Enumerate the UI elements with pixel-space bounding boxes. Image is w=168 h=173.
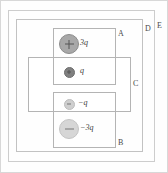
surface-label-E: E <box>157 22 162 30</box>
surface-label-C: C <box>133 80 138 88</box>
gaussian-surface-figure: A B C D E 3q q −q −3q <box>0 0 168 173</box>
surface-label-B: B <box>118 139 123 147</box>
charge-marker-neg-q <box>64 99 75 110</box>
charge-label-neg-q: −q <box>78 99 87 107</box>
plus-sign-icon <box>67 70 71 74</box>
charge-label-neg-3q: −3q <box>80 124 93 132</box>
plus-sign-icon <box>65 40 74 49</box>
minus-sign-icon <box>67 102 71 106</box>
surface-label-D: D <box>145 25 151 33</box>
charge-label-3q: 3q <box>80 39 88 47</box>
surface-label-A: A <box>118 30 124 38</box>
charge-marker-3q <box>59 34 79 54</box>
minus-sign-icon <box>65 125 74 134</box>
charge-label-q: q <box>80 67 84 75</box>
charge-marker-q <box>64 67 75 78</box>
charge-marker-neg-3q <box>59 119 79 139</box>
